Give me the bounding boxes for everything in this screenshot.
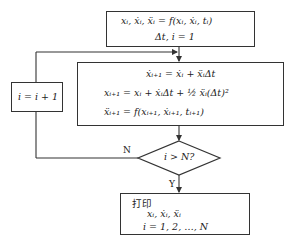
update-line-3: ẍᵢ₊₁ = f(xᵢ₊₁, ẋᵢ₊₁, tᵢ₊₁)	[104, 106, 204, 117]
output-line-2: i = 1, 2, …, N	[143, 221, 208, 232]
update-line-1: ẋᵢ₊₁ = ẋᵢ + ẍᵢΔt	[146, 68, 215, 79]
update-box: ẋᵢ₊₁ = ẋᵢ + ẍᵢΔt xᵢ₊₁ = xᵢ + ẋᵢΔt + ½ ẍᵢ…	[77, 62, 284, 126]
decision-text: i > N?	[164, 151, 194, 162]
init-line-1: xᵢ, ẋᵢ, ẍᵢ = f(xᵢ, ẋᵢ, tᵢ)	[121, 15, 212, 26]
init-line-2: Δt, i = 1	[155, 31, 195, 42]
output-line-1: xᵢ, ẋᵢ, ẍᵢ	[147, 208, 181, 219]
yes-label: Y	[169, 179, 175, 189]
init-box: xᵢ, ẋᵢ, ẍᵢ = f(xᵢ, ẋᵢ, tᵢ) Δt, i = 1	[106, 11, 255, 47]
increment-box: i = i + 1	[11, 82, 63, 112]
update-line-2: xᵢ₊₁ = xᵢ + ẋᵢΔt + ½ ẍᵢ(Δt)²	[104, 87, 229, 98]
output-box: 打印 xᵢ, ẋᵢ, ẍᵢ i = 1, 2, …, N	[120, 193, 250, 235]
no-label: N	[123, 145, 131, 155]
increment-text: i = i + 1	[18, 91, 58, 102]
